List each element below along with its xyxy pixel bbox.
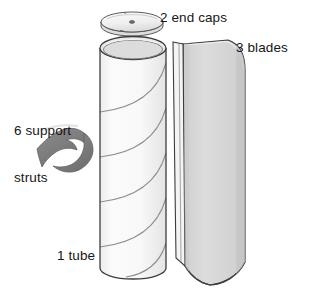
parts-diagram: 2 end caps 3 blades 6 support struts 1 t… [0, 0, 310, 295]
blade-shade-right [236, 40, 246, 286]
tube-rim-inner [104, 40, 163, 59]
label-blades: 3 blades [236, 40, 288, 56]
label-support-struts-line2: struts [14, 170, 71, 186]
label-end-caps: 2 end caps [160, 10, 227, 26]
label-support-struts: 6 support struts [14, 92, 71, 216]
blade-part [173, 40, 246, 286]
label-tube: 1 tube [57, 248, 95, 264]
blade-surface [183, 40, 245, 285]
tube-body [100, 48, 166, 279]
tube-part [100, 37, 166, 280]
end-cap-center-hole [129, 21, 134, 24]
end-cap-part [101, 12, 163, 36]
label-support-struts-line1: 6 support [14, 123, 71, 139]
